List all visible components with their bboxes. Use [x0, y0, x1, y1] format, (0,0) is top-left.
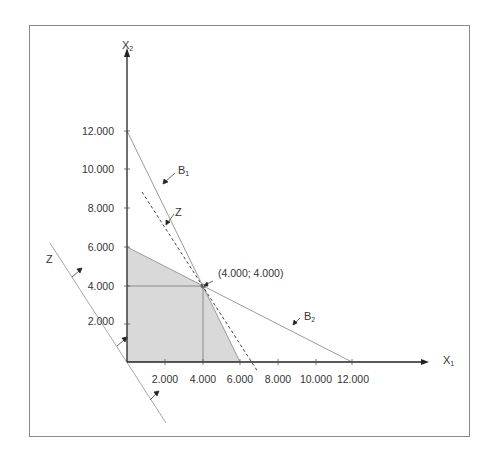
y-axis-label: X2: [122, 40, 133, 52]
x-tick-label-12000: 12.000: [330, 374, 376, 385]
y-tick-label-10000: 10.000: [64, 164, 114, 175]
optimum-label: (4.000; 4.000): [218, 268, 283, 279]
x-axis-arrow-icon: [421, 359, 429, 365]
z-optimal-label: Z: [175, 207, 182, 218]
y-tick-label-6000: 6.000: [64, 242, 114, 253]
x-axis-label: X1: [443, 355, 454, 367]
b1-label: B1: [178, 165, 189, 177]
b2-label: B2: [304, 311, 315, 323]
graph-canvas: [0, 0, 497, 462]
y-tick-label-12000: 12.000: [64, 126, 114, 137]
y-tick-label-4000: 4.000: [64, 281, 114, 292]
y-tick-label-8000: 8.000: [64, 203, 114, 214]
y-tick-label-2000: 2.000: [64, 316, 114, 327]
z-origin-label: Z: [46, 254, 53, 265]
feasible-region: [127, 247, 240, 362]
